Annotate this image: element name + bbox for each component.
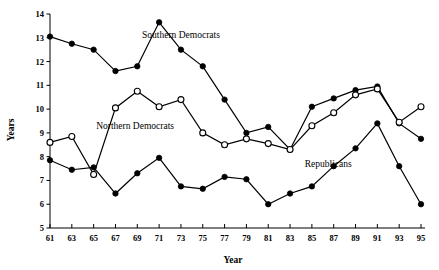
data-point [266, 124, 271, 129]
data-point [134, 88, 140, 94]
x-axis-tick-label: 61 [46, 233, 55, 243]
data-point [266, 202, 271, 207]
data-point [156, 20, 161, 25]
x-axis-tick-label: 81 [264, 233, 273, 243]
y-axis-tick-label: 6 [40, 199, 44, 209]
data-point [222, 174, 227, 179]
series-label: Northern Democrats [96, 121, 174, 131]
data-point [309, 184, 314, 189]
data-point [396, 119, 402, 125]
series-label: Republicans [305, 159, 352, 169]
y-axis-tick-label: 5 [40, 223, 44, 233]
data-point [156, 104, 162, 110]
x-axis-tick-label: 69 [133, 233, 142, 243]
data-point [91, 172, 97, 178]
data-point [178, 184, 183, 189]
data-point [69, 41, 74, 46]
data-point [222, 97, 227, 102]
data-point [200, 130, 206, 136]
data-point [353, 146, 358, 151]
x-axis-tick-label: 71 [155, 233, 164, 243]
y-axis-tick-label: 14 [36, 9, 45, 19]
y-axis-tick-label: 12 [36, 57, 45, 67]
data-point [287, 147, 293, 153]
data-point [418, 202, 423, 207]
data-point [112, 105, 118, 111]
data-point [69, 133, 75, 139]
plot-background [0, 0, 439, 270]
x-axis-tick-label: 83 [286, 233, 295, 243]
data-point [244, 130, 249, 135]
x-axis-tick-label: 87 [329, 233, 338, 243]
x-axis-tick-label: 73 [177, 233, 186, 243]
data-point [91, 47, 96, 52]
x-axis-tick-label: 79 [242, 233, 251, 243]
x-axis-tick-label: 65 [89, 233, 98, 243]
data-point [243, 136, 249, 142]
data-point [309, 123, 315, 129]
data-point [47, 158, 52, 163]
x-axis-tick-label: 75 [199, 233, 208, 243]
x-axis-tick-label: 85 [308, 233, 317, 243]
data-point [200, 64, 205, 69]
data-point [91, 165, 96, 170]
x-axis-tick-label: 63 [68, 233, 77, 243]
y-axis-tick-label: 13 [36, 33, 45, 43]
data-point [287, 191, 292, 196]
y-axis-tick-label: 8 [40, 152, 44, 162]
data-point [244, 177, 249, 182]
series-label: Southern Democrats [142, 30, 220, 40]
data-point [418, 104, 424, 110]
data-point [69, 167, 74, 172]
data-point [331, 110, 337, 116]
x-axis-title: Year [224, 255, 244, 265]
y-axis-tick-label: 9 [40, 128, 44, 138]
x-axis-tick-label: 95 [417, 233, 426, 243]
data-point [353, 92, 359, 98]
line-chart: 567891011121314 616365676971737577798183… [0, 0, 439, 270]
data-point [156, 155, 161, 160]
data-point [135, 171, 140, 176]
y-axis-tick-label: 11 [36, 80, 44, 90]
data-point [309, 104, 314, 109]
data-point [47, 34, 52, 39]
data-point [374, 86, 380, 92]
y-axis-title: Years [6, 118, 16, 141]
data-point [47, 139, 53, 145]
data-point [135, 64, 140, 69]
data-point [222, 142, 228, 148]
x-axis-tick-label: 91 [373, 233, 382, 243]
data-point [265, 141, 271, 147]
data-point [113, 68, 118, 73]
data-point [178, 47, 183, 52]
data-point [178, 97, 184, 103]
x-axis-tick-label: 67 [111, 233, 120, 243]
x-axis-tick-label: 77 [220, 233, 229, 243]
data-point [331, 96, 336, 101]
chart-container: 567891011121314 616365676971737577798183… [0, 0, 439, 270]
data-point [200, 186, 205, 191]
data-point [396, 163, 401, 168]
data-point [375, 121, 380, 126]
data-point [113, 191, 118, 196]
x-axis-tick-label: 89 [351, 233, 360, 243]
data-point [418, 136, 423, 141]
x-axis-tick-label: 93 [395, 233, 404, 243]
y-axis-tick-label: 10 [36, 104, 45, 114]
